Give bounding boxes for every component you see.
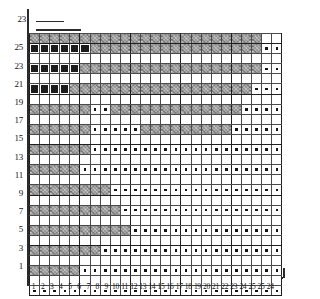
cell-dot[interactable] (211, 245, 221, 255)
cell-dot[interactable] (181, 205, 191, 215)
cell-solid[interactable] (30, 64, 40, 74)
cell-hatch[interactable] (231, 104, 241, 114)
cell-empty[interactable] (262, 155, 272, 165)
cell-hatch[interactable] (100, 84, 110, 94)
cell-hatch[interactable] (171, 84, 181, 94)
cell-dot[interactable] (241, 145, 251, 155)
cell-empty[interactable] (241, 114, 251, 124)
cell-hatch[interactable] (110, 34, 120, 44)
cell-empty[interactable] (151, 235, 161, 245)
cell-empty[interactable] (201, 195, 211, 205)
cell-hatch[interactable] (191, 124, 201, 134)
cell-empty[interactable] (100, 215, 110, 225)
cell-dot[interactable] (171, 225, 181, 235)
cell-dot[interactable] (201, 145, 211, 155)
cell-hatch[interactable] (40, 245, 50, 255)
cell-dot[interactable] (231, 124, 241, 134)
cell-empty[interactable] (100, 54, 110, 64)
cell-hatch[interactable] (161, 124, 171, 134)
cell-empty[interactable] (90, 195, 100, 205)
cell-empty[interactable] (141, 114, 151, 124)
cell-empty[interactable] (141, 215, 151, 225)
cell-hatch[interactable] (40, 225, 50, 235)
cell-hatch[interactable] (221, 44, 231, 54)
cell-empty[interactable] (30, 54, 40, 64)
cell-hatch[interactable] (171, 64, 181, 74)
cell-hatch[interactable] (221, 104, 231, 114)
cell-empty[interactable] (30, 114, 40, 124)
cell-empty[interactable] (80, 74, 90, 84)
cell-empty[interactable] (211, 155, 221, 165)
cell-empty[interactable] (130, 134, 140, 144)
cell-solid[interactable] (50, 84, 60, 94)
cell-solid[interactable] (60, 84, 70, 94)
cell-dot[interactable] (181, 245, 191, 255)
cell-empty[interactable] (262, 195, 272, 205)
cell-empty[interactable] (201, 54, 211, 64)
cell-hatch[interactable] (191, 84, 201, 94)
pattern-grid[interactable] (29, 33, 282, 296)
cell-empty[interactable] (30, 235, 40, 245)
cell-empty[interactable] (90, 175, 100, 185)
cell-dot[interactable] (231, 185, 241, 195)
cell-empty[interactable] (252, 155, 262, 165)
cell-hatch[interactable] (241, 84, 251, 94)
cell-empty[interactable] (272, 114, 282, 124)
cell-empty[interactable] (120, 256, 130, 266)
cell-dot[interactable] (272, 205, 282, 215)
cell-empty[interactable] (60, 94, 70, 104)
cell-hatch[interactable] (70, 185, 80, 195)
cell-dot[interactable] (262, 165, 272, 175)
cell-empty[interactable] (211, 256, 221, 266)
cell-hatch[interactable] (100, 44, 110, 54)
cell-empty[interactable] (100, 134, 110, 144)
cell-empty[interactable] (181, 114, 191, 124)
cell-empty[interactable] (70, 215, 80, 225)
cell-empty[interactable] (130, 256, 140, 266)
cell-empty[interactable] (181, 256, 191, 266)
cell-empty[interactable] (90, 256, 100, 266)
cell-empty[interactable] (252, 74, 262, 84)
cell-dot[interactable] (262, 64, 272, 74)
cell-empty[interactable] (60, 74, 70, 84)
cell-hatch[interactable] (30, 185, 40, 195)
cell-dot[interactable] (151, 266, 161, 276)
cell-hatch[interactable] (40, 185, 50, 195)
cell-empty[interactable] (201, 175, 211, 185)
cell-empty[interactable] (100, 155, 110, 165)
cell-hatch[interactable] (90, 64, 100, 74)
cell-empty[interactable] (262, 114, 272, 124)
cell-empty[interactable] (171, 134, 181, 144)
cell-empty[interactable] (211, 74, 221, 84)
cell-solid[interactable] (50, 44, 60, 54)
cell-dot[interactable] (141, 145, 151, 155)
cell-hatch[interactable] (40, 205, 50, 215)
cell-dot[interactable] (231, 266, 241, 276)
cell-empty[interactable] (120, 74, 130, 84)
cell-solid[interactable] (30, 84, 40, 94)
cell-hatch[interactable] (241, 64, 251, 74)
cell-empty[interactable] (30, 256, 40, 266)
cell-dot[interactable] (252, 165, 262, 175)
cell-empty[interactable] (40, 54, 50, 64)
cell-empty[interactable] (241, 94, 251, 104)
cell-dot[interactable] (252, 145, 262, 155)
cell-empty[interactable] (100, 256, 110, 266)
cell-empty[interactable] (252, 175, 262, 185)
cell-solid[interactable] (30, 44, 40, 54)
cell-hatch[interactable] (50, 266, 60, 276)
cell-empty[interactable] (221, 235, 231, 245)
cell-empty[interactable] (120, 215, 130, 225)
cell-dot[interactable] (100, 124, 110, 134)
cell-dot[interactable] (211, 165, 221, 175)
cell-empty[interactable] (90, 54, 100, 64)
cell-hatch[interactable] (50, 185, 60, 195)
cell-empty[interactable] (130, 74, 140, 84)
cell-dot[interactable] (252, 124, 262, 134)
cell-hatch[interactable] (191, 104, 201, 114)
cell-empty[interactable] (90, 235, 100, 245)
cell-empty[interactable] (262, 34, 272, 44)
cell-empty[interactable] (110, 235, 120, 245)
cell-empty[interactable] (151, 74, 161, 84)
cell-empty[interactable] (110, 155, 120, 165)
